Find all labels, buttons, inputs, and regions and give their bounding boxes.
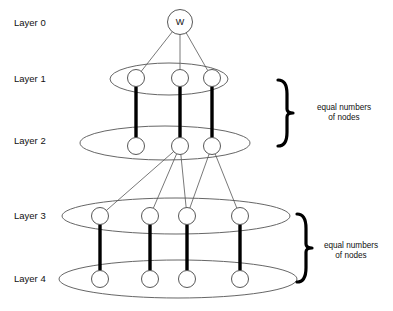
node-circle — [179, 271, 196, 288]
label-layer-2: Layer 2 — [14, 135, 46, 146]
curly-brace-icon — [278, 80, 293, 146]
label-layer-3: Layer 3 — [14, 210, 46, 221]
annotation-line-1: equal numbers — [324, 241, 378, 250]
label-layer-0: Layer 0 — [14, 17, 46, 28]
edge-n-w-to-n-1-1 — [141, 32, 172, 71]
node-n-1-2[interactable] — [172, 70, 189, 87]
node-circle — [92, 208, 109, 225]
node-n-4-4[interactable] — [232, 271, 249, 288]
node-circle — [204, 70, 221, 87]
node-circle — [204, 138, 221, 155]
node-circle — [92, 271, 109, 288]
node-circle — [232, 271, 249, 288]
node-n-4-3[interactable] — [179, 271, 196, 288]
annotations-group: equal numbersof nodesequal numbersof nod… — [278, 80, 378, 282]
edge-n-2-2-to-n-3-2 — [153, 154, 176, 208]
node-n-3-1[interactable] — [92, 208, 109, 225]
node-label: W — [176, 17, 185, 27]
node-n-1-1[interactable] — [128, 70, 145, 87]
curly-brace-icon — [297, 214, 312, 282]
annotation-line-2: of nodes — [335, 251, 366, 260]
node-n-4-1[interactable] — [92, 271, 109, 288]
node-n-w[interactable]: W — [168, 10, 193, 35]
edge-n-2-2-to-n-3-3 — [181, 154, 186, 207]
annotation-line-2: of nodes — [328, 113, 359, 122]
node-circle — [179, 208, 196, 225]
node-circle — [128, 138, 145, 155]
node-n-3-2[interactable] — [142, 208, 159, 225]
node-n-3-3[interactable] — [179, 208, 196, 225]
edge-n-2-3-to-n-3-3 — [190, 154, 209, 208]
layered-node-diagram: W Layer 0Layer 1Layer 2Layer 3Layer 4 eq… — [0, 0, 393, 311]
node-n-1-3[interactable] — [204, 70, 221, 87]
label-layer-4: Layer 4 — [14, 273, 46, 284]
node-n-2-2[interactable] — [172, 138, 189, 155]
node-circle — [142, 208, 159, 225]
label-layer-1: Layer 1 — [14, 73, 46, 84]
node-circle — [172, 70, 189, 87]
node-circle — [142, 271, 159, 288]
node-n-2-3[interactable] — [204, 138, 221, 155]
diagram-canvas: W Layer 0Layer 1Layer 2Layer 3Layer 4 eq… — [0, 0, 393, 311]
annotation-upper: equal numbersof nodes — [278, 80, 371, 146]
annotation-lower: equal numbersof nodes — [297, 214, 378, 282]
node-n-4-2[interactable] — [142, 271, 159, 288]
nodes-group: W — [92, 10, 249, 288]
thin-edges-group — [106, 32, 236, 211]
node-circle — [172, 138, 189, 155]
node-circle — [128, 70, 145, 87]
node-n-3-4[interactable] — [232, 208, 249, 225]
node-circle — [232, 208, 249, 225]
thick-edges-group — [100, 87, 240, 271]
annotation-line-1: equal numbers — [317, 103, 371, 112]
plate-layer-2-ellipse — [80, 126, 250, 160]
edge-n-2-2-to-n-3-1 — [106, 152, 173, 211]
plate-ellipses-group — [59, 63, 297, 298]
layer-labels-group: Layer 0Layer 1Layer 2Layer 3Layer 4 — [14, 17, 46, 284]
node-n-2-1[interactable] — [128, 138, 145, 155]
